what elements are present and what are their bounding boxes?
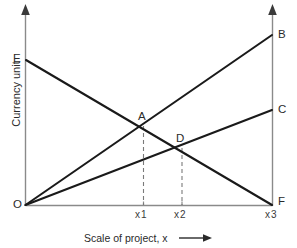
point-label-E: E — [13, 53, 21, 65]
point-label-B: B — [278, 29, 286, 41]
x-tick-x1-subscript: 1 — [140, 209, 147, 220]
point-label-F: F — [278, 196, 285, 208]
series-line-EF — [26, 60, 272, 205]
x-tick-label-x1: x1 — [135, 210, 147, 220]
series-line-OB — [26, 35, 273, 205]
x-tick-label-x2: x2 — [174, 210, 186, 220]
x-tick-label-x3: x3 — [265, 210, 277, 220]
point-label-O: O — [13, 199, 22, 211]
x-axis-title-group: Scale of project, x — [0, 228, 297, 247]
point-label-A: A — [138, 111, 146, 123]
y-axis-arrowhead-icon — [21, 4, 30, 15]
x-tick-x3-subscript: 3 — [270, 209, 277, 220]
series-line-OC — [26, 110, 273, 205]
x-axis-direction-arrow-icon — [179, 229, 213, 247]
chart-figure: Currency unit O E B C F A D x1 x2 x3 Sca… — [0, 0, 297, 248]
right-axis-arrowhead-icon — [268, 4, 277, 15]
x-tick-x2-subscript: 2 — [179, 209, 186, 220]
x-axis-title: Scale of project, x — [84, 232, 167, 244]
point-label-D: D — [176, 133, 184, 145]
point-label-C: C — [278, 104, 286, 116]
chart-plot-area — [0, 0, 297, 248]
